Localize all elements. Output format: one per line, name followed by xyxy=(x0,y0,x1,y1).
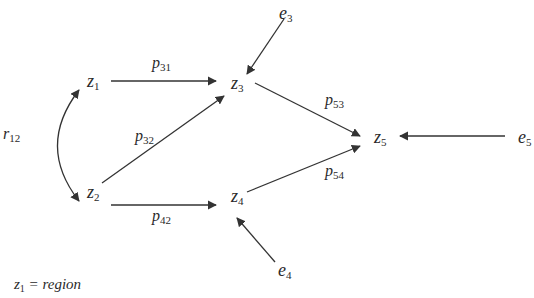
correlation-curve-r12 xyxy=(58,90,80,201)
node-z5: z5 xyxy=(374,128,387,148)
node-z2: z2 xyxy=(87,183,100,203)
node-z1: z1 xyxy=(87,72,100,92)
correlation-label-r12: r12 xyxy=(3,126,20,144)
path-diagram-canvas xyxy=(0,0,534,298)
edge-z2-z3 xyxy=(102,96,224,183)
path-label-p53: p53 xyxy=(325,92,344,110)
legend-z1-definition: z1 = region xyxy=(14,276,81,294)
node-z3: z3 xyxy=(231,74,244,94)
node-z4: z4 xyxy=(231,187,244,207)
path-label-p42: p42 xyxy=(152,208,171,226)
node-e4: e4 xyxy=(278,261,292,281)
path-label-p54: p54 xyxy=(325,163,344,181)
edge-z3-z5 xyxy=(255,83,360,136)
edge-e3-z3 xyxy=(247,19,284,74)
node-e5: e5 xyxy=(518,128,532,148)
node-e3: e3 xyxy=(279,4,293,24)
path-label-p31: p31 xyxy=(152,55,171,73)
path-label-p32: p32 xyxy=(135,128,154,146)
edge-e4-z4 xyxy=(237,218,275,262)
